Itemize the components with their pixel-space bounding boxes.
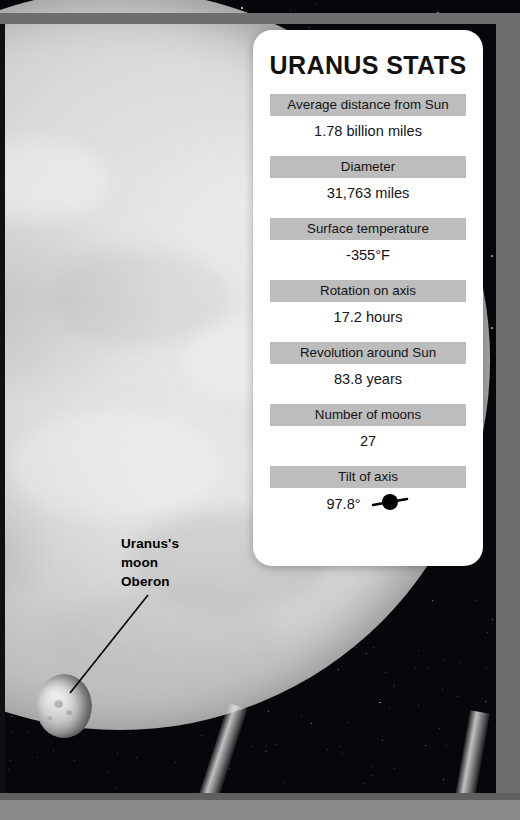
star <box>266 745 267 746</box>
planet-surface-band <box>0 140 110 220</box>
stat-value: 31,763 miles <box>253 178 483 215</box>
star <box>364 783 365 784</box>
star <box>389 707 390 708</box>
star <box>316 4 317 5</box>
page-frame-left <box>0 24 5 800</box>
star <box>485 701 486 702</box>
panel-title: URANUS STATS <box>253 51 483 80</box>
stat-row: Tilt of axis97.8° <box>253 466 483 527</box>
star <box>108 772 109 773</box>
star <box>11 716 12 717</box>
uranus-stats-panel: URANUS STATS Average distance from Sun1.… <box>253 30 483 566</box>
stat-value: 17.2 hours <box>253 302 483 339</box>
star <box>327 749 328 750</box>
star <box>394 684 395 685</box>
stat-label: Surface temperature <box>270 218 466 240</box>
star <box>475 600 476 601</box>
moon-annotation-label: Uranus's moon Oberon <box>121 534 179 591</box>
star <box>136 757 137 758</box>
star <box>175 762 176 763</box>
star <box>356 647 357 648</box>
star <box>491 327 493 329</box>
stat-value: 27 <box>253 426 483 463</box>
stat-label: Average distance from Sun <box>270 94 466 116</box>
star <box>446 745 447 746</box>
star <box>432 600 433 601</box>
page-frame-bottom <box>0 800 520 820</box>
stat-row: Surface temperature-355°F <box>253 218 483 277</box>
star <box>371 775 372 776</box>
star <box>492 619 493 620</box>
star <box>283 782 284 783</box>
star <box>393 686 394 687</box>
star <box>394 768 395 769</box>
star <box>275 744 276 745</box>
stat-row: Average distance from Sun1.78 billion mi… <box>253 94 483 153</box>
moon-label-line-3: Oberon <box>121 572 179 591</box>
stat-row: Number of moons27 <box>253 404 483 463</box>
star <box>373 647 374 648</box>
star <box>268 711 269 712</box>
tilt-angle-value: 97.8° <box>326 496 360 512</box>
star <box>443 779 444 780</box>
stat-value: 83.8 years <box>253 364 483 401</box>
star <box>385 672 386 673</box>
moon-label-line-1: Uranus's <box>121 534 179 553</box>
star <box>309 27 310 28</box>
page-frame-top <box>0 13 520 24</box>
star <box>338 669 339 670</box>
star <box>418 650 419 651</box>
star <box>12 731 13 732</box>
stat-label: Tilt of axis <box>270 466 466 488</box>
star <box>460 662 461 663</box>
star <box>340 746 341 747</box>
star <box>252 746 253 747</box>
star <box>418 705 419 706</box>
star <box>311 723 312 724</box>
stat-row: Rotation on axis17.2 hours <box>253 280 483 339</box>
star <box>117 753 118 754</box>
star <box>241 7 244 10</box>
moon-crater <box>54 700 63 708</box>
page-frame-right <box>496 24 520 800</box>
star <box>428 668 429 669</box>
star <box>53 750 54 751</box>
star <box>74 760 75 761</box>
stat-value: -355°F <box>253 240 483 277</box>
star <box>347 722 348 723</box>
stat-row: Revolution around Sun83.8 years <box>253 342 483 401</box>
star <box>442 689 443 690</box>
star <box>415 668 416 669</box>
star <box>301 716 302 717</box>
star <box>486 667 487 668</box>
moon-label-line-2: moon <box>121 553 179 572</box>
tilted-planet-axis-icon <box>370 492 410 516</box>
star <box>491 255 493 257</box>
stat-label: Rotation on axis <box>270 280 466 302</box>
star <box>382 740 383 741</box>
stats-list: Average distance from Sun1.78 billion mi… <box>253 94 483 527</box>
stat-value: 1.78 billion miles <box>253 116 483 153</box>
moon-crater <box>47 716 52 720</box>
page-canvas: Uranus's moon Oberon URANUS STATS Averag… <box>0 0 520 820</box>
planet-surface-band <box>10 410 220 520</box>
stat-row: Diameter31,763 miles <box>253 156 483 215</box>
star <box>8 769 9 770</box>
star <box>10 760 11 761</box>
star <box>487 632 488 633</box>
star <box>266 750 267 751</box>
star <box>229 768 230 769</box>
star <box>265 751 266 752</box>
star <box>130 733 131 734</box>
star <box>28 731 29 732</box>
star <box>116 787 117 788</box>
stat-label: Diameter <box>270 156 466 178</box>
star <box>439 728 440 729</box>
stat-label: Revolution around Sun <box>270 342 466 364</box>
star <box>425 745 426 746</box>
star <box>444 660 445 661</box>
star <box>366 653 367 654</box>
star <box>372 766 373 767</box>
star <box>290 10 291 11</box>
stat-value: 97.8° <box>253 488 483 527</box>
